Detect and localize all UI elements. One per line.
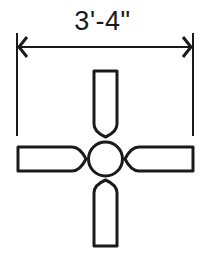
fan-blade-right	[125, 147, 193, 171]
fan-hub	[89, 142, 123, 176]
fan-blade-top	[94, 71, 117, 137]
fan-symbol-diagram: 3'-4"	[0, 0, 205, 255]
dimension-label: 3'-4"	[0, 7, 205, 35]
fan-blade-left	[18, 147, 86, 171]
diagram-graphics	[0, 0, 205, 255]
fan-blade-bottom	[94, 180, 117, 246]
